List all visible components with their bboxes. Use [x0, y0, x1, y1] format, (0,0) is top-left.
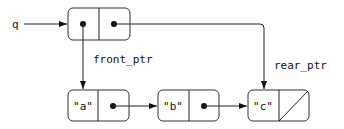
node-a-value: "a" [73, 100, 93, 113]
list-node-c: "c" [248, 90, 309, 121]
node-c-value: "c" [253, 100, 273, 113]
list-node-a: "a" [68, 90, 157, 121]
variable-q-label: q [12, 18, 19, 31]
rear-ptr-label: rear_ptr [274, 59, 327, 72]
queue-diagram: q front_ptr rear_ptr "a" "b" "c" [0, 0, 344, 129]
list-node-b: "b" [158, 90, 247, 121]
node-b-value: "b" [163, 100, 183, 113]
front-ptr-label: front_ptr [93, 53, 153, 66]
